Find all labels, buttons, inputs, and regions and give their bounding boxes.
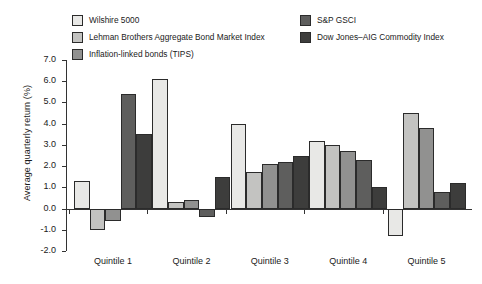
legend-item-label: Lehman Brothers Aggregate Bond Market In…: [89, 33, 265, 42]
y-axis-tick-label: 7.0: [43, 54, 56, 64]
bar: [121, 94, 137, 209]
bar: [136, 134, 152, 208]
bar: [105, 209, 121, 222]
legend-item[interactable]: Dow Jones–AIG Commodity Index: [300, 30, 444, 45]
bar: [246, 172, 262, 208]
y-axis-tick-label: 2.0: [43, 160, 56, 170]
bar-chart: Wilshire 5000Lehman Brothers Aggregate B…: [0, 0, 482, 284]
legend-column-left: Wilshire 5000Lehman Brothers Aggregate B…: [72, 13, 265, 64]
y-axis-tick-label: -1.0: [40, 224, 56, 234]
legend-item[interactable]: S&P GSCI: [300, 13, 444, 28]
zero-baseline: [66, 209, 472, 210]
bar: [215, 177, 231, 209]
bar: [403, 113, 419, 209]
legend-item-label: Wilshire 5000: [89, 16, 139, 25]
legend-swatch-icon: [72, 32, 83, 43]
plot-area: 7.06.05.04.03.02.01.00.0-1.0-2.0Quintile…: [66, 60, 472, 251]
x-axis-category-label: Quintile 5: [380, 256, 474, 266]
y-axis-tick: 2.0: [62, 166, 66, 167]
y-axis-tick: 4.0: [62, 124, 66, 125]
bar: [184, 200, 200, 208]
bar: [293, 156, 309, 209]
y-axis-tick-label: 0.0: [43, 203, 56, 213]
y-axis-tick: 6.0: [62, 81, 66, 82]
x-axis-group-tick: [226, 209, 227, 214]
chart-legend: Wilshire 5000Lehman Brothers Aggregate B…: [72, 13, 472, 61]
bar: [74, 181, 90, 209]
bar: [372, 187, 388, 208]
legend-swatch-icon: [300, 32, 311, 43]
bar: [168, 202, 184, 208]
legend-column-right: S&P GSCIDow Jones–AIG Commodity Index: [300, 13, 444, 47]
bar: [262, 164, 278, 209]
y-axis-tick: 1.0: [62, 187, 66, 188]
y-axis-tick: 3.0: [62, 145, 66, 146]
y-axis-tick-label: 4.0: [43, 118, 56, 128]
y-axis-tick-label: 3.0: [43, 139, 56, 149]
y-axis-tick: 5.0: [62, 102, 66, 103]
y-axis-tick: -2.0: [62, 251, 66, 252]
bar: [199, 209, 215, 217]
x-axis-group-tick: [69, 209, 70, 214]
y-axis-tick-label: 6.0: [43, 75, 56, 85]
y-axis-tick-label: -2.0: [40, 245, 56, 255]
bar: [231, 124, 247, 209]
bar: [90, 209, 106, 230]
x-axis-group-tick: [147, 209, 148, 214]
legend-item-label: Dow Jones–AIG Commodity Index: [317, 33, 444, 42]
legend-item-label: Inflation-linked bonds (TIPS): [89, 50, 194, 59]
legend-swatch-icon: [72, 15, 83, 26]
y-axis-tick: 0.0: [62, 209, 66, 210]
y-axis-line: [66, 60, 67, 251]
bar: [356, 160, 372, 209]
bar: [325, 145, 341, 209]
y-axis-tick: -1.0: [62, 230, 66, 231]
bar: [340, 151, 356, 208]
x-axis-group-tick: [304, 209, 305, 214]
legend-item[interactable]: Lehman Brothers Aggregate Bond Market In…: [72, 30, 265, 45]
bar: [434, 192, 450, 209]
y-axis-tick-label: 5.0: [43, 96, 56, 106]
bar: [450, 183, 466, 208]
y-axis-tick-label: 1.0: [43, 181, 56, 191]
bar: [152, 79, 168, 208]
bar: [309, 141, 325, 209]
bar: [388, 209, 404, 237]
legend-item[interactable]: Wilshire 5000: [72, 13, 265, 28]
legend-swatch-icon: [300, 15, 311, 26]
bar: [278, 162, 294, 209]
legend-item-label: S&P GSCI: [317, 16, 356, 25]
x-axis-group-tick: [383, 209, 384, 214]
y-axis-title: Average quarterly return (%): [22, 53, 32, 233]
bar: [419, 128, 435, 209]
y-axis-tick: 7.0: [62, 60, 66, 61]
legend-swatch-icon: [72, 49, 83, 60]
